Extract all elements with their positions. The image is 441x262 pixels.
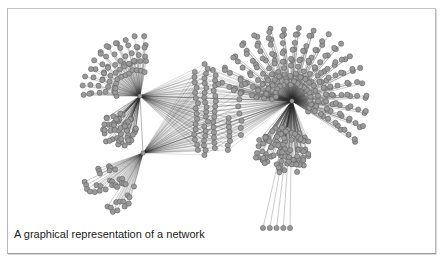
network-node [267, 66, 272, 71]
network-node [260, 71, 265, 76]
network-node [280, 41, 285, 46]
network-node [192, 75, 197, 80]
network-node [97, 171, 102, 176]
network-node [288, 63, 293, 68]
network-node [248, 73, 253, 78]
network-node [194, 85, 199, 90]
network-node [267, 225, 272, 230]
network-node [100, 62, 105, 67]
network-node [314, 104, 319, 109]
network-node [213, 93, 218, 98]
network-node [326, 116, 331, 121]
network-node [240, 43, 245, 48]
network-node [130, 132, 135, 137]
network-node [118, 111, 123, 116]
network-node [239, 118, 244, 123]
network-node [213, 73, 218, 78]
network-node [295, 64, 300, 69]
network-node [288, 148, 293, 153]
network-node [339, 41, 344, 46]
network-node [193, 127, 198, 132]
network-node [142, 34, 147, 39]
network-node [105, 65, 110, 70]
network-node [337, 111, 342, 116]
network-node [114, 117, 119, 122]
network-node [276, 143, 281, 148]
network-node [258, 49, 263, 54]
network-node [211, 130, 216, 135]
network-node [255, 43, 260, 48]
network-node [113, 62, 118, 67]
network-node [201, 143, 206, 148]
network-node [303, 77, 308, 82]
network-node [250, 84, 255, 89]
network-node [236, 104, 241, 109]
network-node [108, 73, 113, 78]
network-node [281, 27, 286, 32]
network-node [318, 111, 323, 116]
network-node [283, 129, 288, 134]
network-node [203, 148, 208, 153]
network-node [211, 88, 216, 93]
network-node [329, 92, 334, 97]
network-node [126, 201, 131, 206]
network-node [122, 124, 127, 129]
network-node [115, 208, 120, 213]
network-node [102, 122, 107, 127]
network-node [126, 119, 131, 124]
network-node [346, 132, 351, 137]
network-node [213, 99, 218, 104]
network-node [112, 52, 117, 57]
network-node [321, 85, 326, 90]
network-node [129, 51, 134, 56]
network-node [243, 81, 248, 86]
network-node [307, 33, 312, 38]
network-node [225, 147, 230, 152]
network-node [295, 169, 300, 174]
network-node [202, 152, 207, 157]
network-graph [0, 0, 441, 262]
network-node [315, 93, 320, 98]
network-node [272, 61, 277, 66]
network-node [131, 184, 136, 189]
network-node [252, 33, 257, 38]
network-node [276, 165, 281, 170]
network-node [227, 84, 232, 89]
network-node [103, 89, 108, 94]
network-node [126, 61, 131, 66]
network-node [213, 104, 218, 109]
network-node [326, 75, 331, 80]
network-node [83, 74, 88, 79]
network-node [339, 92, 344, 97]
network-node [97, 90, 102, 95]
network-node [118, 45, 123, 50]
network-node [136, 52, 141, 57]
network-node [298, 75, 303, 80]
network-node [260, 225, 265, 230]
network-node [231, 55, 236, 60]
network-node [113, 41, 118, 46]
network-node [323, 53, 328, 58]
network-node [80, 83, 85, 88]
network-node [261, 141, 266, 146]
network-node [127, 195, 132, 200]
network-node [212, 109, 217, 114]
network-node [103, 187, 108, 192]
network-node [301, 149, 306, 154]
network-node [277, 74, 282, 79]
network-node [111, 123, 116, 128]
network-node [100, 77, 105, 82]
network-node [235, 59, 240, 64]
network-node [364, 93, 369, 98]
network-node [98, 183, 103, 188]
network-node [138, 59, 143, 64]
network-node [133, 126, 138, 131]
network-node [102, 128, 107, 133]
network-node [318, 70, 323, 75]
network-node [260, 56, 265, 61]
network-node [316, 99, 321, 104]
network-node [205, 119, 210, 124]
network-node [202, 81, 207, 86]
network-node [202, 90, 207, 95]
network-node [288, 56, 293, 61]
